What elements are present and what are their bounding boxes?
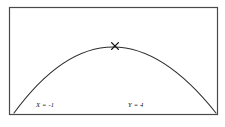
parabola-plot <box>0 0 225 127</box>
x-value-label: X = -1 <box>36 101 54 109</box>
y-value-label: Y = 4 <box>128 101 144 109</box>
plot-background <box>0 0 225 127</box>
figure-container: X = -1 Y = 4 <box>0 0 225 127</box>
